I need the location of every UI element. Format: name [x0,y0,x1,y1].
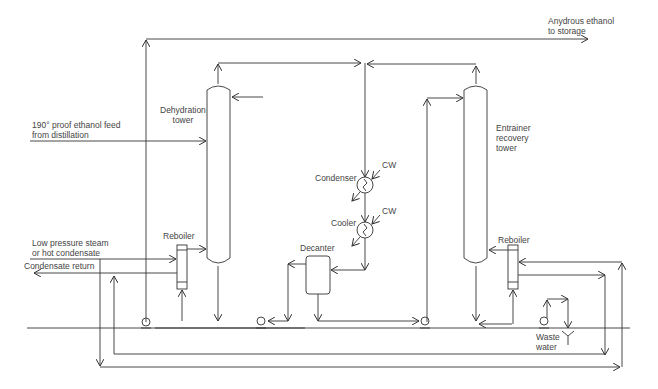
decanter-label: Decanter [300,243,335,253]
entrainer-tower-label: Entrainer recovery tower [496,123,531,153]
reboiler-right-shape [508,245,518,289]
reboiler-left-shape [177,245,187,289]
steam-label: Low pressure steam or hot condensate [32,238,109,258]
cooler-label: Cooler [331,218,356,228]
feed-label: 190° proof ethanol feed from distillatio… [32,120,120,140]
reboiler-right-label: Reboiler [498,235,530,245]
diagram-drawing [0,0,658,389]
pump-2-shape [256,317,266,328]
pump-3-shape [420,317,430,328]
dehydration-tower-label: Dehydration tower [160,105,206,125]
cw-cooler-label: CW [382,206,396,216]
reboiler-left-label: Reboiler [163,231,195,241]
entrainer-tower-shape [464,66,487,263]
cw-condenser-label: CW [382,160,396,170]
condensate-return-label: Condensate return [24,261,94,271]
pump-4-shape [539,317,549,328]
waste-water-label: Waste water [536,332,560,352]
product-label: Anydrous ethanol to storage [548,16,614,36]
dehydration-tower-shape [207,64,230,263]
condenser-label: Condenser [315,173,357,183]
process-flow-diagram: Anydrous ethanol to storage 190° proof e… [0,0,658,389]
decanter-shape [306,256,330,294]
